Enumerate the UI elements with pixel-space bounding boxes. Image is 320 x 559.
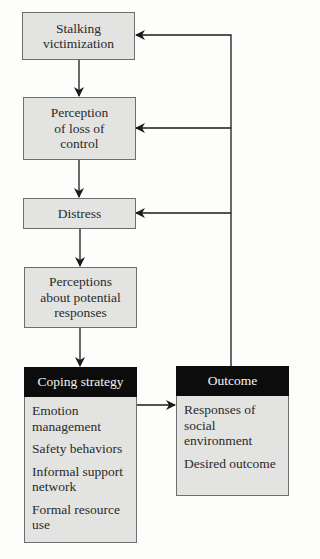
node-label-line: about potential bbox=[40, 290, 121, 306]
node-label-line: Distress bbox=[58, 206, 102, 222]
node-label-line: Perceptions bbox=[40, 274, 121, 290]
coping-item: Safety behaviors bbox=[32, 441, 128, 457]
coping-item: Emotion management bbox=[32, 403, 128, 434]
node-label-line: control bbox=[51, 136, 109, 152]
node-stalking-victimization: Stalking victimization bbox=[22, 12, 135, 60]
node-distress: Distress bbox=[23, 198, 136, 229]
coping-item: Formal resource use bbox=[32, 502, 128, 533]
node-label-line: of loss of bbox=[51, 121, 109, 137]
coping-strategy-panel: Coping strategy Emotion management Safet… bbox=[24, 367, 137, 543]
coping-strategy-title: Coping strategy bbox=[38, 374, 124, 390]
coping-item: Informal support network bbox=[32, 464, 128, 495]
outcome-title: Outcome bbox=[208, 373, 258, 389]
node-label-line: Stalking bbox=[43, 21, 114, 37]
coping-strategy-list: Emotion management Safety behaviors Info… bbox=[25, 397, 136, 533]
node-perception-of-loss-of-control: Perception of loss of control bbox=[23, 97, 136, 160]
node-label-line: victimization bbox=[43, 36, 114, 52]
coping-strategy-header: Coping strategy bbox=[24, 367, 137, 397]
outcome-list: Responses of social environment Desired … bbox=[177, 396, 288, 471]
feedback-line bbox=[136, 35, 231, 366]
outcome-item: Responses of social environment bbox=[184, 402, 280, 449]
node-label-line: responses bbox=[40, 305, 121, 321]
outcome-header: Outcome bbox=[176, 366, 289, 396]
node-perceptions-about-potential-responses: Perceptions about potential responses bbox=[24, 267, 137, 328]
outcome-panel: Outcome Responses of social environment … bbox=[176, 366, 289, 496]
outcome-item: Desired outcome bbox=[184, 456, 280, 472]
node-label-line: Perception bbox=[51, 105, 109, 121]
